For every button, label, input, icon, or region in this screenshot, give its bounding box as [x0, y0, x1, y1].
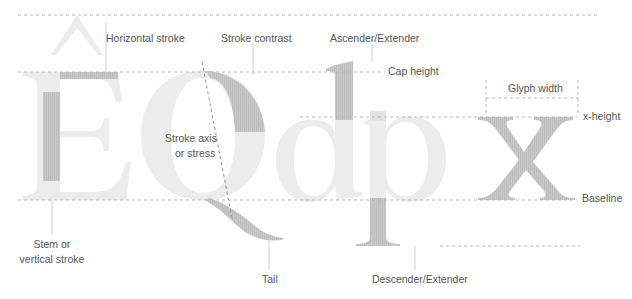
label-stem-line1: Stem or: [22, 238, 82, 251]
label-stroke-axis-line2: or stress: [175, 147, 215, 160]
tail-highlight: [204, 198, 284, 241]
descender-highlight: [356, 198, 400, 246]
label-stroke-contrast: Stroke contrast: [221, 32, 292, 45]
label-horizontal-stroke: Horizontal stroke: [106, 32, 185, 45]
label-descender: Descender/Extender: [372, 273, 468, 286]
label-baseline: Baseline: [582, 192, 622, 205]
glyph-x: [478, 117, 575, 200]
type-anatomy-diagram: Horizontal stroke Stroke contrast Ascend…: [0, 0, 632, 299]
label-ascender: Ascender/Extender: [330, 32, 419, 45]
stem-highlight: [43, 92, 60, 181]
horizontal-stroke-highlight: [60, 72, 118, 79]
ascender-highlight: [326, 61, 353, 120]
glyph-d: [276, 61, 362, 202]
label-tail: Tail: [262, 273, 278, 286]
label-x-height: x-height: [583, 110, 620, 123]
glyph-p: [356, 111, 446, 246]
label-stroke-axis-line1: Stroke axis: [165, 132, 217, 145]
label-cap-height: Cap height: [388, 65, 439, 78]
circumflex-accent: [51, 15, 103, 55]
label-glyph-width: Glyph width: [508, 82, 563, 95]
label-stem-line2: vertical stroke: [12, 253, 92, 266]
